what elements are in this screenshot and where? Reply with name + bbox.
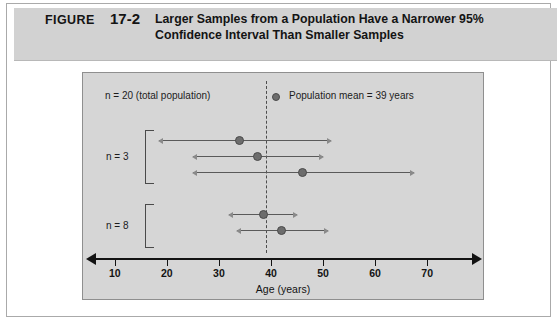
- confidence-interval-3-3: [193, 167, 414, 178]
- group-label-n3: n = 3: [106, 151, 129, 162]
- x-axis-arrow-left-icon: [86, 253, 96, 265]
- x-axis-tick-10: [115, 260, 116, 266]
- x-axis-tick-20: [167, 260, 168, 266]
- x-axis-tick-label-60: 60: [369, 267, 381, 279]
- x-axis-tick-label-10: 10: [109, 267, 121, 279]
- x-axis-tick-60: [375, 260, 376, 266]
- legend-population-mean-label: Population mean = 39 years: [289, 90, 414, 101]
- group-bracket-n3: [145, 130, 154, 184]
- confidence-interval-upper-cap-icon: [293, 212, 298, 218]
- x-axis-tick-label-40: 40: [265, 267, 277, 279]
- figure-title: Larger Samples from a Population Have a …: [155, 11, 545, 43]
- group-bracket-n8: [145, 204, 154, 248]
- confidence-interval-upper-cap-icon: [319, 154, 324, 160]
- x-axis-tick-label-50: 50: [317, 267, 329, 279]
- figure-label: FIGURE: [45, 13, 95, 27]
- sample-mean-dot: [277, 226, 286, 235]
- group-label-n8: n = 8: [106, 220, 129, 231]
- figure-title-line-1: Larger Samples from a Population Have a …: [155, 12, 484, 26]
- confidence-interval-lower-cap-icon: [192, 154, 197, 160]
- confidence-interval-8-1: [229, 209, 297, 220]
- legend-total-population-label: n = 20 (total population): [105, 90, 210, 101]
- confidence-interval-upper-cap-icon: [327, 138, 332, 144]
- figure-page: FIGURE 17-2 Larger Samples from a Popula…: [0, 0, 557, 322]
- figure-frame: FIGURE 17-2 Larger Samples from a Popula…: [6, 3, 551, 317]
- chart-panel: n = 20 (total population) Population mea…: [82, 72, 484, 300]
- x-axis-arrow-right-icon: [472, 253, 482, 265]
- x-axis-tick-50: [323, 260, 324, 266]
- x-axis-tick-label-70: 70: [421, 267, 433, 279]
- confidence-interval-line: [159, 140, 331, 141]
- confidence-interval-upper-cap-icon: [324, 228, 329, 234]
- confidence-interval-8-2: [237, 225, 328, 236]
- figure-number: 17-2: [110, 10, 140, 27]
- x-axis-tick-label-30: 30: [213, 267, 225, 279]
- sample-mean-dot: [235, 136, 244, 145]
- figure-title-line-2: Confidence Interval Than Smaller Samples: [155, 27, 545, 43]
- x-axis-title: Age (years): [83, 283, 483, 295]
- confidence-interval-lower-cap-icon: [228, 212, 233, 218]
- x-axis-tick-label-20: 20: [161, 267, 173, 279]
- plot-area: n = 20 (total population) Population mea…: [83, 73, 483, 299]
- population-mean-dot-icon: [272, 93, 280, 101]
- confidence-interval-3-1: [159, 135, 331, 146]
- x-axis-line: [94, 258, 474, 260]
- confidence-interval-lower-cap-icon: [192, 170, 197, 176]
- x-axis-tick-70: [427, 260, 428, 266]
- x-axis-tick-40: [271, 260, 272, 266]
- confidence-interval-lower-cap-icon: [158, 138, 163, 144]
- x-axis-tick-30: [219, 260, 220, 266]
- confidence-interval-lower-cap-icon: [236, 228, 241, 234]
- sample-mean-dot: [253, 152, 262, 161]
- sample-mean-dot: [259, 210, 268, 219]
- sample-mean-dot: [298, 168, 307, 177]
- confidence-interval-upper-cap-icon: [410, 170, 415, 176]
- confidence-interval-3-2: [193, 151, 323, 162]
